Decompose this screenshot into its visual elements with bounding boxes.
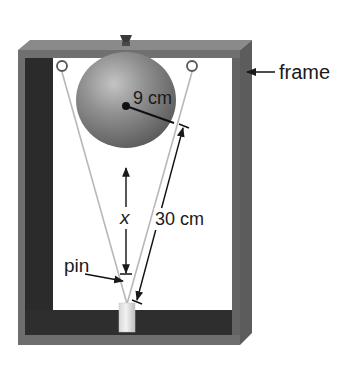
- top-bracket-base: [122, 42, 130, 46]
- right-ring: [187, 61, 197, 71]
- frame-right-side: [240, 40, 252, 345]
- ball-in-frame-diagram: 9 cm 30 cm x pin frame: [0, 0, 360, 390]
- frame-right-column: [232, 58, 240, 335]
- distance-x-label: x: [119, 207, 131, 228]
- left-ring: [57, 61, 67, 71]
- frame-label: frame: [279, 61, 330, 83]
- frame-inner-left-shadow: [25, 58, 53, 335]
- string-length-label: 30 cm: [155, 209, 204, 229]
- pin-label: pin: [64, 255, 89, 276]
- radius-label: 9 cm: [133, 88, 172, 108]
- frame-top-face: [18, 40, 252, 50]
- cylinder: [119, 303, 135, 332]
